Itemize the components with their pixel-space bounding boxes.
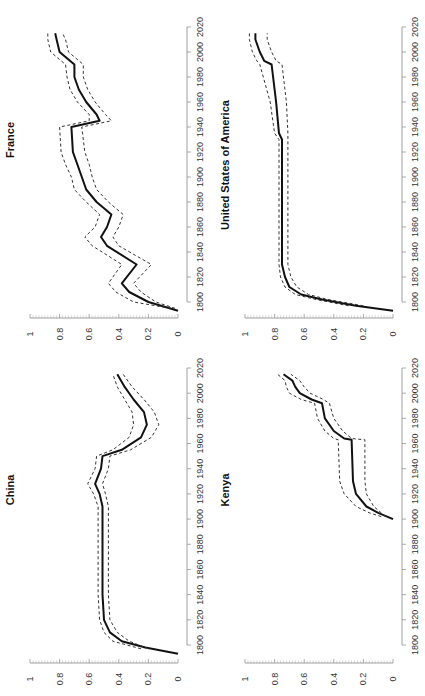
year-tick-label: 1980 xyxy=(195,67,205,87)
panel-title: France xyxy=(4,122,16,158)
panel-kenya: Kenya18001820184018601880190019201940196… xyxy=(219,358,420,685)
chart-figure: France1800182018401860188019001920194019… xyxy=(0,0,425,696)
year-tick-label: 1960 xyxy=(195,434,205,454)
value-tick-label: 0.6 xyxy=(84,328,94,341)
year-tick-label: 1840 xyxy=(195,242,205,262)
confidence-bound-line xyxy=(278,374,382,516)
estimate-line xyxy=(284,374,394,519)
year-tick-label: 1820 xyxy=(410,267,420,287)
year-tick-label: 1800 xyxy=(195,635,205,655)
value-tick-label: 0.6 xyxy=(299,673,309,686)
year-tick-label: 1880 xyxy=(195,534,205,554)
value-tick-label: 1 xyxy=(240,676,250,681)
year-tick-label: 1820 xyxy=(195,610,205,630)
value-tick-label: 0.8 xyxy=(270,673,280,686)
year-tick-label: 1800 xyxy=(410,292,420,312)
year-tick-label: 1880 xyxy=(410,192,420,212)
year-tick-label: 1860 xyxy=(195,559,205,579)
value-tick-label: 0.8 xyxy=(55,328,65,341)
value-tick-label: 0.4 xyxy=(329,328,339,341)
panel-title: Kenya xyxy=(219,473,231,507)
year-tick-label: 1920 xyxy=(195,142,205,162)
panel-france: France1800182018401860188019001920194019… xyxy=(4,17,205,340)
estimate-line xyxy=(55,33,178,311)
value-tick-label: 0.4 xyxy=(114,328,124,341)
confidence-bound-line xyxy=(249,33,348,306)
year-tick-label: 1860 xyxy=(195,217,205,237)
year-tick-label: 1920 xyxy=(195,484,205,504)
value-tick-label: 0.4 xyxy=(329,673,339,686)
value-tick-label: 0.8 xyxy=(270,328,280,341)
year-tick-label: 1840 xyxy=(410,585,420,605)
year-tick-label: 1940 xyxy=(410,459,420,479)
panel-china: China18001820184018601880190019201940196… xyxy=(4,358,205,685)
value-tick-label: 0.8 xyxy=(55,673,65,686)
year-tick-label: 1880 xyxy=(410,534,420,554)
year-tick-label: 1800 xyxy=(195,292,205,312)
year-tick-label: 1840 xyxy=(410,242,420,262)
year-tick-label: 1960 xyxy=(410,92,420,112)
year-tick-label: 2000 xyxy=(410,42,420,62)
value-tick-label: 0.6 xyxy=(84,673,94,686)
year-tick-label: 1800 xyxy=(410,635,420,655)
year-tick-label: 1960 xyxy=(410,434,420,454)
year-tick-label: 1820 xyxy=(195,267,205,287)
year-tick-label: 1980 xyxy=(195,408,205,428)
year-tick-label: 2020 xyxy=(195,17,205,37)
value-tick-label: 0.4 xyxy=(114,673,124,686)
year-tick-label: 1820 xyxy=(410,610,420,630)
panel-title: United States of America xyxy=(219,99,231,230)
year-tick-label: 1860 xyxy=(410,217,420,237)
panel-title: China xyxy=(4,474,16,505)
year-tick-label: 1940 xyxy=(195,117,205,137)
year-tick-label: 1980 xyxy=(410,408,420,428)
year-tick-label: 2020 xyxy=(195,358,205,378)
year-tick-label: 1900 xyxy=(410,167,420,187)
confidence-bound-line xyxy=(88,374,141,649)
value-tick-label: 1 xyxy=(240,331,250,336)
year-tick-label: 1920 xyxy=(410,484,420,504)
year-tick-label: 2000 xyxy=(195,42,205,62)
value-tick-label: 0 xyxy=(388,676,398,681)
value-tick-label: 0 xyxy=(173,676,183,681)
confidence-bound-line xyxy=(48,33,171,308)
value-tick-label: 0 xyxy=(388,331,398,336)
value-tick-label: 0.2 xyxy=(143,328,153,341)
value-tick-label: 0.2 xyxy=(143,673,153,686)
value-tick-label: 0.2 xyxy=(358,673,368,686)
confidence-bound-line xyxy=(103,374,159,649)
year-tick-label: 1960 xyxy=(195,92,205,112)
year-tick-label: 1880 xyxy=(195,192,205,212)
year-tick-label: 2000 xyxy=(410,383,420,403)
value-tick-label: 0 xyxy=(173,331,183,336)
value-tick-label: 0.2 xyxy=(358,328,368,341)
year-tick-label: 1940 xyxy=(195,459,205,479)
value-tick-label: 1 xyxy=(25,331,35,336)
value-tick-label: 1 xyxy=(25,676,35,681)
year-tick-label: 1840 xyxy=(195,585,205,605)
panel-usa: United States of America1800182018401860… xyxy=(219,17,420,340)
year-tick-label: 1900 xyxy=(195,509,205,529)
estimate-line xyxy=(255,33,393,311)
year-tick-label: 1980 xyxy=(410,67,420,87)
year-tick-label: 1860 xyxy=(410,559,420,579)
year-tick-label: 1900 xyxy=(410,509,420,529)
year-tick-label: 1920 xyxy=(410,142,420,162)
value-tick-label: 0.6 xyxy=(299,328,309,341)
year-tick-label: 1900 xyxy=(195,167,205,187)
year-tick-label: 1940 xyxy=(410,117,420,137)
year-tick-label: 2020 xyxy=(410,358,420,378)
year-tick-label: 2020 xyxy=(410,17,420,37)
estimate-line xyxy=(95,374,178,654)
year-tick-label: 2000 xyxy=(195,383,205,403)
